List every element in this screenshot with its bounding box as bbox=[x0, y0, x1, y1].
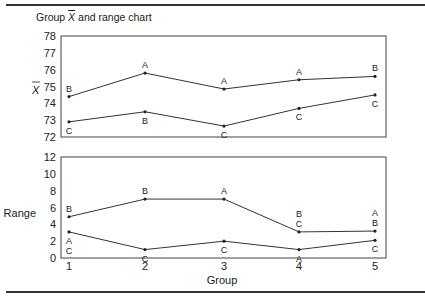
range-data-point bbox=[67, 215, 70, 218]
xbar-ytick-label: 74 bbox=[44, 97, 56, 109]
range-ytick-label: 8 bbox=[50, 185, 56, 197]
xbar-point-label: C bbox=[66, 126, 73, 136]
range-point-label: A bbox=[372, 208, 378, 218]
range-data-point bbox=[373, 239, 376, 242]
xbar-ytick-label: 73 bbox=[44, 114, 56, 126]
range-point-label: B bbox=[296, 209, 302, 219]
xbar-data-point bbox=[67, 95, 70, 98]
range-ytick-label: 12 bbox=[44, 151, 56, 163]
range-point-label: C bbox=[296, 219, 303, 229]
xbar-data-point bbox=[297, 107, 300, 110]
xbar-ytick-label: 75 bbox=[44, 81, 56, 93]
xtick-label: 1 bbox=[66, 260, 72, 272]
xbar-point-label: C bbox=[221, 130, 228, 140]
range-ytick-label: 6 bbox=[50, 202, 56, 214]
range-data-point bbox=[222, 240, 225, 243]
xbar-plot-frame bbox=[61, 36, 386, 137]
range-axis-label: Range bbox=[4, 207, 36, 219]
range-point-label: B bbox=[66, 204, 72, 214]
xbar-data-point bbox=[222, 124, 225, 127]
range-data-point bbox=[297, 248, 300, 251]
xtick-label: 5 bbox=[372, 260, 378, 272]
xtick-label: 3 bbox=[221, 260, 227, 272]
xbar-point-label: A bbox=[142, 60, 148, 70]
xbar-data-point bbox=[373, 93, 376, 96]
range-point-label: A bbox=[221, 186, 227, 196]
range-max-line bbox=[69, 199, 375, 232]
range-data-point bbox=[222, 197, 225, 200]
range-ytick-label: 10 bbox=[44, 168, 56, 180]
range-point-label: B bbox=[142, 186, 148, 196]
xbar-point-label: A bbox=[296, 67, 302, 77]
range-point-label: C bbox=[221, 245, 228, 255]
xbar-axis-label: X bbox=[31, 84, 40, 96]
xtick-label: 4 bbox=[296, 260, 302, 272]
range-ytick-label: 2 bbox=[50, 235, 56, 247]
range-data-point bbox=[297, 230, 300, 233]
xbar-range-chart: 72737475767778XBAAABCBCCC024681012RangeB… bbox=[0, 0, 425, 296]
range-ytick-label: 4 bbox=[50, 218, 56, 230]
range-point-label: B bbox=[372, 218, 378, 228]
range-data-point bbox=[143, 197, 146, 200]
xbar-ytick-label: 78 bbox=[44, 30, 56, 42]
range-data-point bbox=[143, 248, 146, 251]
range-data-point bbox=[373, 229, 376, 232]
xbar-point-label: B bbox=[66, 84, 72, 94]
bottom-rule bbox=[6, 291, 425, 293]
xbar-data-point bbox=[143, 110, 146, 113]
xbar-min-line bbox=[69, 95, 375, 126]
x-axis-label: Group bbox=[207, 274, 238, 286]
xbar-point-label: C bbox=[296, 112, 303, 122]
xbar-data-point bbox=[297, 78, 300, 81]
range-point-label: C bbox=[66, 246, 73, 256]
xbar-ytick-label: 72 bbox=[44, 131, 56, 143]
range-ytick-label: 0 bbox=[50, 252, 56, 264]
xbar-point-label: A bbox=[221, 76, 227, 86]
xbar-ytick-label: 77 bbox=[44, 47, 56, 59]
xbar-point-label: B bbox=[372, 63, 378, 73]
xbar-data-point bbox=[67, 120, 70, 123]
xbar-point-label: B bbox=[142, 116, 148, 126]
xbar-data-point bbox=[373, 75, 376, 78]
xbar-ytick-label: 76 bbox=[44, 64, 56, 76]
xbar-data-point bbox=[143, 71, 146, 74]
xbar-point-label: C bbox=[372, 99, 379, 109]
range-point-label: A bbox=[66, 236, 72, 246]
xtick-label: 2 bbox=[142, 260, 148, 272]
xbar-data-point bbox=[222, 87, 225, 90]
range-data-point bbox=[67, 230, 70, 233]
range-point-label: C bbox=[372, 244, 379, 254]
